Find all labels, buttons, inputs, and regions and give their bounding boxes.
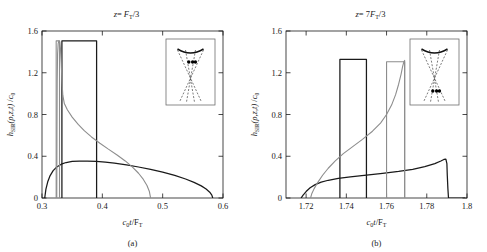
field-point-dot-icon [194,60,197,63]
panel-a: z= FT/30.30.40.50.600.40.81.21.6c0t/FThS… [0,0,244,252]
x-tick-label: 0.3 [37,201,48,211]
inset-transducer-geometry-far-field [410,39,459,105]
curve-exact-sir-gray [57,41,151,198]
y-tick-label: 0 [277,193,281,203]
curve-exact-sir-black [45,161,213,198]
plot-b-canvas: z= 7FT/31.721.741.761.781.800.40.81.21.6… [244,0,487,252]
curve-exact-sir-gray [310,60,404,198]
x-tick-label: 1.78 [419,201,434,211]
x-axis-title: c0t/FT [123,217,143,228]
inset-frame [410,39,459,105]
curve-rect-approx-gray [386,62,404,198]
x-tick-label: 1.8 [461,201,472,211]
panel-title: z= FT/3 [113,9,140,20]
figure-container: z= FT/30.30.40.50.600.40.81.21.6c0t/FThS… [0,0,487,252]
x-tick-label: 0.5 [157,201,168,211]
y-tick-label: 0.8 [271,110,282,120]
x-axis-title: c0t/FT [366,217,386,228]
curve-exact-sir-black [301,159,465,198]
inset-frame [166,39,215,105]
y-tick-label: 0.8 [27,110,38,120]
field-point-dot-icon [187,60,190,63]
curve-rect-approx-black [62,41,97,198]
y-tick-label: 0.4 [27,151,38,161]
plot-a-canvas: z= FT/30.30.40.50.600.40.81.21.6c0t/FThS… [0,0,244,252]
y-tick-label: 1.6 [271,26,282,36]
panel-caption: (a) [128,238,138,248]
y-tick-label: 0.4 [271,151,282,161]
panel-b: z= 7FT/31.721.741.761.781.800.40.81.21.6… [244,0,487,252]
inset-transducer-geometry-near-focus [166,39,215,105]
y-tick-label: 0 [34,193,38,203]
y-axis-title: hSIR(ρ,z,t) /c0 [5,92,16,136]
x-tick-label: 1.76 [379,201,394,211]
x-tick-label: 0.6 [218,201,229,211]
field-point-dot-icon [437,89,440,92]
y-tick-label: 1.2 [27,68,38,78]
x-tick-label: 0.4 [97,201,108,211]
field-point-dot-icon [431,89,434,92]
panel-title: z= 7FT/3 [354,9,385,20]
panel-caption: (b) [371,238,381,248]
x-tick-label: 1.74 [338,201,354,211]
y-tick-label: 1.6 [27,26,38,36]
x-tick-label: 1.72 [298,201,313,211]
y-tick-label: 1.2 [271,68,282,78]
y-axis-title: hSIR(ρ,z,t) /c0 [249,92,260,136]
